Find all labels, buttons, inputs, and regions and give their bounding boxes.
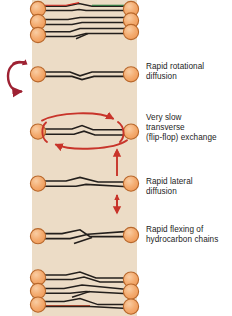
lipid-row-top-3 [30,24,138,42]
lipid-head [30,270,45,285]
lipid-head [123,299,138,314]
lipid-head [123,24,138,39]
lipid-row-bottom-2 [30,283,138,299]
lipid-head [30,229,45,244]
label-rapid-flexing-of-hydrocarbon-chains: Rapid flexing of hydrocarbon chains [146,225,218,245]
bottom-lipid-cluster [30,270,138,314]
chain-flexing-lipid [30,227,138,243]
label-very-slow-transverse-flip-flop-exchange: Very slow transverse (flip-flop) exchang… [146,113,217,144]
top-lipid-cluster [30,1,138,42]
lipid-head [123,227,138,242]
label-rapid-lateral-diffusion: Rapid lateral diffusion [146,177,193,197]
lipid-row-top-2 [30,13,138,30]
lipid-head [123,176,138,191]
lateral-diffusion-lipid [30,176,138,191]
label-rapid-rotational-diffusion: Rapid rotational diffusion [146,62,204,82]
lipid-head [30,297,45,312]
lipid-row-top-1 [30,1,138,16]
lipid-head [30,67,45,82]
lipid-head [123,67,138,82]
lipid-head [30,27,45,42]
vertical-double-headed-arrows-icon [114,149,119,214]
lipid-head [123,124,138,139]
rotational-diffusion-lipid [30,67,138,82]
lipid-head [123,284,138,299]
lipid-head [30,283,45,298]
lipid-bilayer-diagram: Rapid rotational diffusion Very slow tra… [0,0,232,316]
lipid-head [30,176,45,191]
lipid-row-bottom-3 [30,297,138,314]
diagram-graphics-layer [0,0,232,316]
circular-rotation-arrow-icon [8,59,28,91]
